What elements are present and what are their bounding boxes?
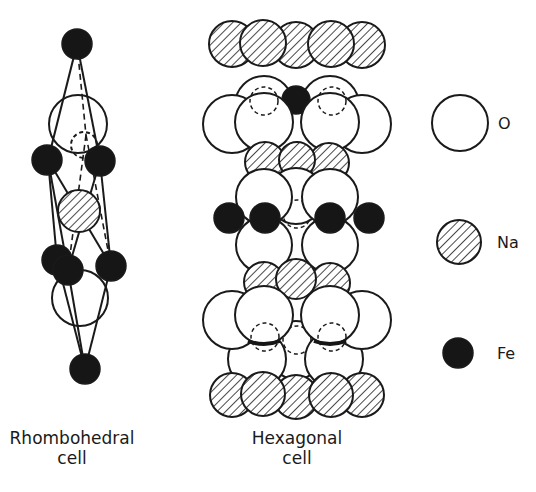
legend-label-sodium: Na	[497, 233, 519, 252]
sodium-atom	[58, 190, 100, 232]
sodium-atom	[241, 372, 285, 416]
iron-atom	[62, 29, 92, 59]
iron-atom	[53, 255, 83, 285]
iron-atom	[315, 203, 345, 233]
sodium-atom	[309, 373, 353, 417]
caption-rhombohedral-line2: cell	[57, 448, 86, 468]
iron-atom	[96, 251, 126, 281]
oxygen-atom-icon	[432, 95, 488, 151]
sodium-atom	[240, 20, 286, 66]
sodium-atom	[308, 21, 354, 67]
iron-atom	[354, 203, 384, 233]
sodium-atom-icon	[437, 220, 481, 264]
caption-hexagonal-line1: Hexagonal	[252, 428, 343, 448]
oxygen-atom	[301, 286, 359, 344]
oxygen-atom	[235, 286, 293, 344]
iron-atom	[214, 203, 244, 233]
legend-label-oxygen: O	[498, 114, 511, 133]
legend-label-iron: Fe	[497, 344, 515, 363]
iron-atom	[250, 203, 280, 233]
iron-atom	[32, 145, 62, 175]
iron-atom	[70, 354, 100, 384]
crystal-structure-figure: O Na Fe Rhombohedral cell Hexagonal cell	[0, 0, 536, 492]
caption-hexagonal-line2: cell	[282, 448, 311, 468]
caption-rhombohedral-line1: Rhombohedral	[10, 428, 135, 448]
iron-atom-icon	[443, 338, 473, 368]
iron-atom	[85, 146, 115, 176]
